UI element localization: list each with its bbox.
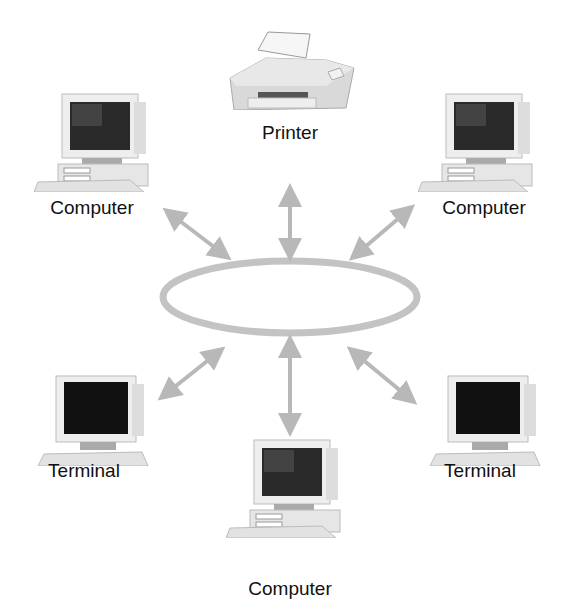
computer-top-right-label: Computer bbox=[442, 197, 525, 219]
computer-top-left-icon bbox=[34, 92, 154, 192]
arrow-terminal-bottom-left bbox=[167, 354, 216, 393]
network-ring bbox=[163, 261, 417, 333]
printer-label: Printer bbox=[262, 122, 318, 144]
terminal-bottom-left-label: Terminal bbox=[48, 460, 120, 482]
terminal-bottom-right-icon bbox=[428, 374, 544, 466]
computer-bottom-label: Computer bbox=[248, 578, 331, 600]
terminal-bottom-left-icon bbox=[36, 374, 152, 466]
arrow-terminal-bottom-right bbox=[356, 354, 408, 397]
arrow-computer-top-right bbox=[358, 212, 406, 253]
computer-bottom-icon bbox=[226, 438, 346, 538]
printer-icon bbox=[218, 28, 360, 110]
terminal-bottom-right-label: Terminal bbox=[444, 460, 516, 482]
computer-top-right-icon bbox=[418, 92, 538, 192]
arrow-computer-top-left bbox=[172, 215, 222, 253]
computer-top-left-label: Computer bbox=[50, 197, 133, 219]
